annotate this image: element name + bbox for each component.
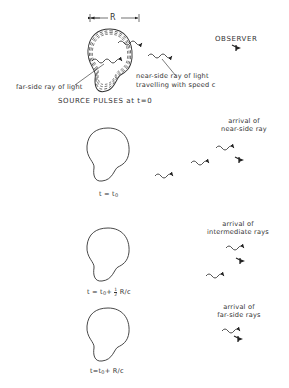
source-blob-shape (87, 228, 129, 281)
source-pulses-label: SOURCE PULSES at t=0 (58, 97, 152, 105)
wavy-ray-arrow-icon (226, 246, 244, 250)
near-side-label-line2: travelling with speed c (136, 82, 216, 90)
far-side-leader (75, 64, 104, 85)
time-label-panel-2: t = t0+ 12 R/c (87, 288, 131, 297)
wavy-ray-arrow-icon (155, 174, 173, 178)
time-label-panel-1: t = t0 (99, 191, 118, 199)
dimension-label: R (110, 13, 116, 22)
observer-label: OBSERVER (215, 35, 257, 43)
observer-eye-icon (236, 258, 245, 264)
wavy-ray-arrow-icon (191, 161, 209, 165)
wavy-ray-arrow-icon (216, 146, 234, 150)
observer-eye-icon (234, 336, 243, 342)
arrival-label-panel-2: arrival of intermediate rays (196, 221, 280, 236)
far-side-label: far-side ray of light (16, 84, 83, 92)
time-label-panel-3: t=t0+ R/c (90, 368, 124, 376)
source-blob-shape (87, 308, 129, 361)
wavy-ray-arrow-icon (222, 329, 240, 333)
arrival-label-panel-1: arrival of near-side ray (214, 118, 274, 133)
emerging-ray-icon (148, 54, 172, 58)
source-blob-shape (87, 128, 129, 181)
observer-eye-icon (235, 157, 244, 163)
far-side-ray-icon (92, 59, 122, 63)
wavy-ray-arrow-icon (206, 274, 224, 278)
arrival-label-panel-3: arrival of far-side rays (206, 304, 272, 319)
observer-eye-icon (232, 45, 241, 51)
diagram-canvas (0, 0, 289, 388)
near-side-label-line1: near-side ray of light (136, 73, 209, 81)
